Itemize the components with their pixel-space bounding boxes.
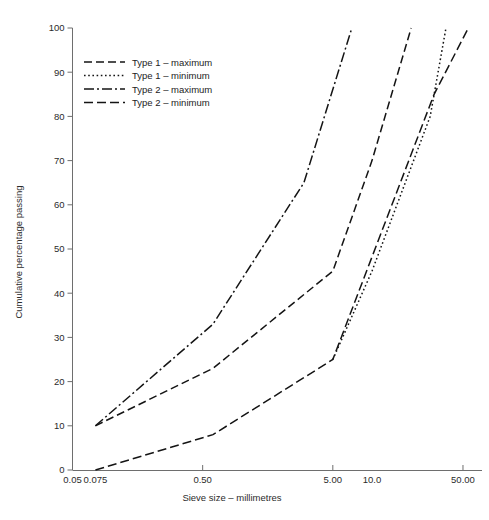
y-tick-label: 30 bbox=[54, 332, 65, 343]
sieve-grading-chart: 0102030405060708090100 0.050.0750.505.00… bbox=[0, 0, 489, 520]
y-axis-tick-labels: 0102030405060708090100 bbox=[49, 22, 65, 475]
y-tick-label: 100 bbox=[49, 22, 65, 33]
y-tick-label: 70 bbox=[54, 155, 65, 166]
y-axis-title: Cumulative percentage passing bbox=[13, 185, 24, 318]
chart-legend: Type 1 – maximumType 1 – minimumType 2 –… bbox=[84, 57, 212, 109]
x-tick-label: 10.0 bbox=[363, 474, 382, 485]
y-tick-label: 90 bbox=[54, 67, 65, 78]
x-axis-ticks bbox=[203, 465, 463, 470]
y-tick-label: 40 bbox=[54, 288, 65, 299]
y-tick-label: 10 bbox=[54, 420, 65, 431]
chart-plot-area: 0102030405060708090100 0.050.0750.505.00… bbox=[0, 0, 489, 520]
x-tick-label: 5.00 bbox=[324, 474, 343, 485]
legend-label-1: Type 1 – maximum bbox=[132, 57, 212, 68]
x-axis-title: Sieve size – millimetres bbox=[182, 492, 281, 503]
y-tick-label: 80 bbox=[54, 111, 65, 122]
x-tick-label: 0.075 bbox=[84, 474, 108, 485]
x-axis-tick-labels: 0.050.0750.505.0010.050.00 bbox=[63, 474, 475, 485]
y-tick-label: 60 bbox=[54, 199, 65, 210]
legend-label-3: Type 2 – maximum bbox=[132, 84, 212, 95]
x-tick-label: 50.00 bbox=[451, 474, 475, 485]
y-axis-ticks bbox=[68, 28, 73, 470]
y-tick-label: 20 bbox=[54, 376, 65, 387]
x-tick-label: 0.05 bbox=[63, 474, 82, 485]
x-tick-label: 0.50 bbox=[193, 474, 212, 485]
legend-label-4: Type 2 – minimum bbox=[132, 97, 210, 108]
series-line-2 bbox=[333, 28, 446, 360]
y-tick-label: 50 bbox=[54, 243, 65, 254]
legend-label-2: Type 1 – minimum bbox=[132, 70, 210, 81]
